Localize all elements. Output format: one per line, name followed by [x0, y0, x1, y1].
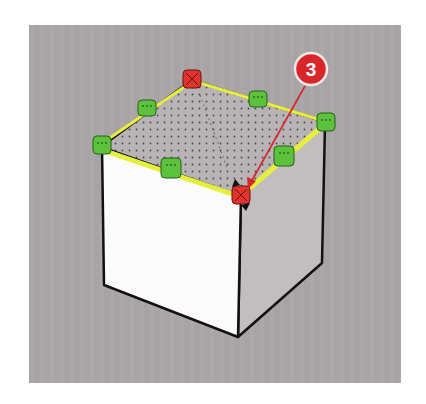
callout-number: 3: [306, 59, 317, 80]
modeling-viewport[interactable]: 3: [0, 0, 426, 404]
grip-top-back-corner[interactable]: [183, 70, 201, 88]
grip-front-corner[interactable]: [232, 186, 250, 204]
grip-right-corner[interactable]: [317, 113, 335, 131]
grip-front-right-midpoint[interactable]: [274, 146, 294, 166]
grip-back-left-midpoint[interactable]: [138, 100, 156, 116]
grip-back-right-midpoint[interactable]: [249, 91, 267, 107]
grip-left-corner[interactable]: [93, 136, 111, 154]
callout-badge: 3: [295, 53, 327, 85]
grip-front-left-midpoint[interactable]: [161, 158, 181, 178]
